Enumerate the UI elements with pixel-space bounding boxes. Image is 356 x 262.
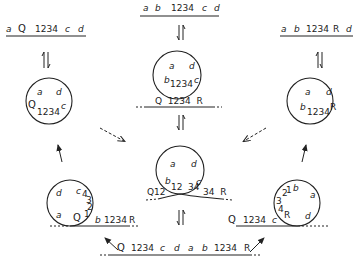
label-d: d [56,189,62,198]
recombination-diagram: a Q 1234 c d a b 1234 c d a b 1234 R d a… [0,0,356,262]
label-c: c [65,25,70,34]
label-a: a [281,25,287,34]
label-c: c [160,244,165,253]
label-Q12: Q12 [147,188,166,197]
label-b: b [202,244,208,253]
label-b: b [294,25,300,34]
label-1234: 1234 [170,80,193,89]
label-d: d [214,4,220,13]
label-R: R [330,103,336,112]
label-a: a [143,4,149,13]
label-d: d [326,88,332,97]
label-d: d [174,244,180,253]
diagram-lines [0,0,356,262]
label-1234: 1234 [171,4,194,13]
label-Q: Q [18,24,26,33]
label-a: a [6,25,12,34]
label-d: d [189,62,195,71]
label-a: a [188,244,194,253]
label-b: b [164,76,170,85]
label-1: 1 [84,210,90,219]
label-4: 4 [278,205,284,214]
label-c: c [202,4,207,13]
label-Q: Q [28,100,36,109]
label-a: a [305,88,311,97]
label-b: b [95,216,101,225]
label-Q: Q [73,213,81,222]
label-R: R [333,25,339,34]
label-Q: Q [117,243,125,252]
label-1234: 1234 [243,216,266,225]
label-R: R [244,244,250,253]
label-a: a [310,191,316,200]
label-d: d [78,25,84,34]
label-a: a [170,160,176,169]
label-1234: 1234 [307,108,330,117]
label-d: d [305,212,311,221]
label-b: b [300,103,306,112]
label-c: c [61,102,66,111]
label-c: c [194,76,199,85]
label-c: c [76,187,81,196]
label-c: c [272,216,277,225]
label-b: b [293,184,299,193]
label-b: b [165,177,171,186]
label-d: d [191,160,197,169]
label-1234: 1234 [214,244,237,253]
label-d: d [346,25,352,34]
label-1234: 1234 [37,108,60,117]
label-1234: 1234 [131,244,154,253]
label-a: a [37,88,43,97]
label-b: b [155,4,161,13]
label-1234: 1234 [306,25,329,34]
label-R: R [284,211,290,220]
label-R: R [129,216,135,225]
label-a: a [56,211,62,220]
label-12: 12 [171,183,182,192]
label-34-R: 34 R [203,188,226,197]
label-a: a [169,62,175,71]
label-1234: 1234 [35,25,58,34]
label-Q: Q [228,215,236,224]
label-c: c [196,178,201,187]
label-d: d [56,88,62,97]
label-1: 1 [286,186,292,195]
label-1234: 1234 [104,216,127,225]
label-Q-1234-R: Q 1234 R [155,97,203,106]
